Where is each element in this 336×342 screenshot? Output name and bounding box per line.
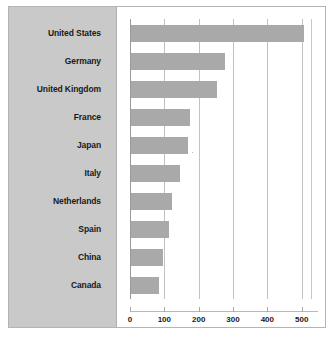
x-tick-label-0: 0 xyxy=(128,315,132,324)
category-label: Canada xyxy=(5,280,101,290)
x-tick-label-500: 500 xyxy=(295,315,308,324)
bar xyxy=(131,25,304,42)
category-label: Spain xyxy=(5,224,101,234)
x-tick-500 xyxy=(302,307,303,312)
bar xyxy=(131,165,180,182)
plot-area: 0100200300400500 xyxy=(130,19,312,299)
gridline-400 xyxy=(267,19,268,299)
category-label-list: United StatesGermanyUnited KingdomFrance… xyxy=(9,19,109,299)
x-tick-300 xyxy=(233,307,234,312)
bar xyxy=(131,137,188,154)
category-label: Germany xyxy=(5,56,101,66)
x-axis-line xyxy=(130,311,318,312)
category-label: Japan xyxy=(5,140,101,150)
gridline-500 xyxy=(302,19,303,299)
bar xyxy=(131,109,190,126)
category-label: Italy xyxy=(5,168,101,178)
x-tick-0 xyxy=(130,307,131,312)
category-label: China xyxy=(5,252,101,262)
category-label: United States xyxy=(5,28,101,38)
x-tick-label-400: 400 xyxy=(261,315,274,324)
x-tick-label-100: 100 xyxy=(158,315,171,324)
chart-figure: United StatesGermanyUnited KingdomFrance… xyxy=(8,6,326,328)
category-label: France xyxy=(5,112,101,122)
category-label-panel: United StatesGermanyUnited KingdomFrance… xyxy=(9,7,117,327)
bar xyxy=(131,53,225,70)
category-label: United Kingdom xyxy=(5,84,101,94)
bar xyxy=(131,81,217,98)
x-tick-400 xyxy=(267,307,268,312)
bar xyxy=(131,193,172,210)
bar xyxy=(131,277,159,294)
gridline-300 xyxy=(233,19,234,299)
x-tick-200 xyxy=(199,307,200,312)
bar xyxy=(131,221,169,238)
bar xyxy=(131,249,163,266)
x-tick-label-300: 300 xyxy=(226,315,239,324)
category-label: Netherlands xyxy=(5,196,101,206)
x-tick-100 xyxy=(164,307,165,312)
x-tick-label-200: 200 xyxy=(192,315,205,324)
artifact-speck xyxy=(192,152,193,153)
